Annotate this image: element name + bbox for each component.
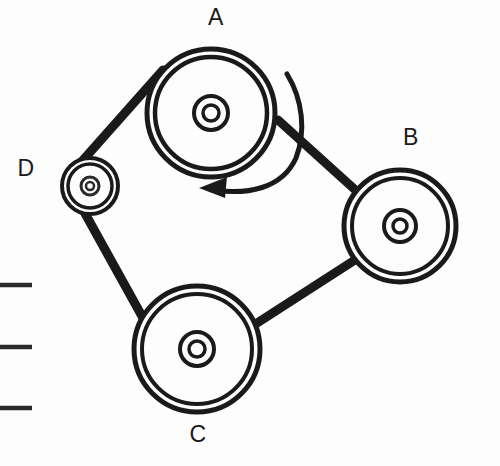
belt-segment-c-to-d <box>82 208 143 318</box>
pulley-a-inner-rim <box>155 57 267 169</box>
pulley-d <box>62 158 118 214</box>
belt-segment-b-to-c <box>254 258 358 325</box>
margin-tick-marks <box>0 285 32 408</box>
pulley-b-inner-rim <box>352 178 448 274</box>
pulley-label-d: D <box>13 157 39 180</box>
pulley-c-inner-rim <box>142 294 252 404</box>
pulley-label-c: C <box>185 423 211 446</box>
belt-segment-a-to-b <box>278 120 362 196</box>
pulley-label-b: B <box>398 126 424 149</box>
rotation-arrow-head <box>199 177 227 198</box>
pulley-c <box>134 286 260 412</box>
belt-drive-diagram: A B C D <box>0 0 500 466</box>
belt-and-pulleys-svg <box>0 0 500 466</box>
pulley-d-inner-rim <box>68 164 112 208</box>
pulley-label-a: A <box>203 6 229 29</box>
pulley-b <box>344 170 456 282</box>
pulley-a <box>147 49 275 177</box>
